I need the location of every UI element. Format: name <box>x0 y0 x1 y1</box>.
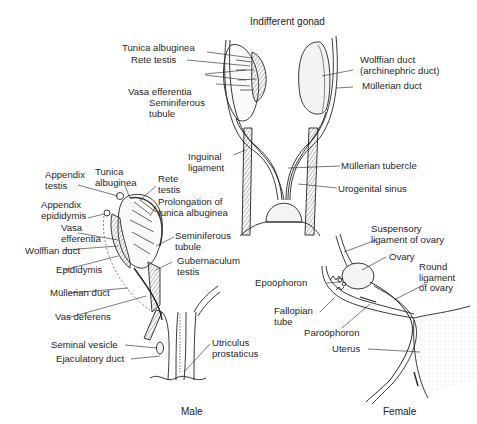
label-tunica-albuginea: Tunica albuginea <box>122 43 195 54</box>
label-male-mullerian-duct: Müllerian duct <box>50 288 110 299</box>
appendix-epididymis <box>104 210 110 216</box>
label-male-vasa-efferentia: Vasa efferentia <box>61 223 101 244</box>
label-appendix-epididymis: Appendix epididymis <box>41 200 86 221</box>
label-rete-testis: Rete testis <box>131 55 176 66</box>
label-wolffian-duct: Wolffian duct (archinephric duct) <box>360 55 439 76</box>
suspensory-ligament <box>336 234 354 268</box>
uterus <box>414 308 477 396</box>
label-urogenital-sinus: Urogenital sinus <box>338 184 407 195</box>
seminal-vesicle <box>157 342 164 354</box>
label-appendix-testis: Appendix testis <box>45 170 85 191</box>
ovary <box>342 263 374 289</box>
label-round-ligament: Round ligament of ovary <box>419 262 455 294</box>
label-mullerian-tubercle: Müllerian tubercle <box>341 161 417 172</box>
label-paroophoron: Paroöphoron <box>304 328 359 339</box>
urogenital-sinus <box>266 203 302 222</box>
label-seminal-vesicle: Seminal vesicle <box>51 340 118 351</box>
label-prolongation-tunica: Prolongation of tunica albuginea <box>158 197 228 218</box>
male-title: Male <box>181 406 203 417</box>
indifferent-gonad-title: Indifferent gonad <box>250 16 325 27</box>
gubernaculum-testis <box>148 262 160 312</box>
label-male-wolffian-duct: Wolffian duct <box>25 246 80 257</box>
indifferent-gonad-drawing <box>223 36 337 236</box>
label-ejaculatory-duct: Ejaculatory duct <box>56 354 124 365</box>
right-inguinal-ligament <box>305 128 318 235</box>
left-gonad-tunica <box>252 52 267 102</box>
label-vas-deferens: Vas deferens <box>55 312 111 323</box>
female-title: Female <box>383 406 416 417</box>
label-vasa-efferentia: Vasa efferentia <box>128 87 192 98</box>
paroophoron <box>360 297 376 302</box>
label-fallopian-tube: Fallopian tube <box>274 306 313 327</box>
label-epididymis: Epididymis <box>56 265 102 276</box>
label-seminiferous-tubule: Seminiferous tubule <box>149 98 205 119</box>
label-uterus: Uterus <box>332 344 360 355</box>
label-mullerian-duct: Müllerian duct <box>362 81 422 92</box>
right-gonad <box>299 42 330 114</box>
urethra <box>162 312 196 380</box>
label-male-seminiferous-tubule: Seminiferous tubule <box>175 231 231 252</box>
label-male-rete-testis: Rete testis <box>158 174 180 195</box>
label-gubernaculum-testis: Gubernaculum testis <box>177 256 240 277</box>
label-male-tunica-albuginea: Tunica albuginea <box>95 167 137 188</box>
round-ligament <box>366 282 412 402</box>
label-epoophoron: Epoöphoron <box>255 278 307 289</box>
label-ovary: Ovary <box>389 252 415 263</box>
label-suspensory-ligament: Suspensory ligament of ovary <box>371 224 444 245</box>
label-utriculus-prostaticus: Utriculus prostaticus <box>212 338 258 359</box>
left-inguinal-ligament <box>242 128 252 235</box>
label-inguinal-ligament: Inguinal ligament <box>188 152 224 173</box>
